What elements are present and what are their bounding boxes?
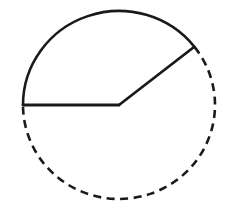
- figure-canvas: [0, 0, 230, 209]
- circle-sector-diagram: [0, 0, 230, 209]
